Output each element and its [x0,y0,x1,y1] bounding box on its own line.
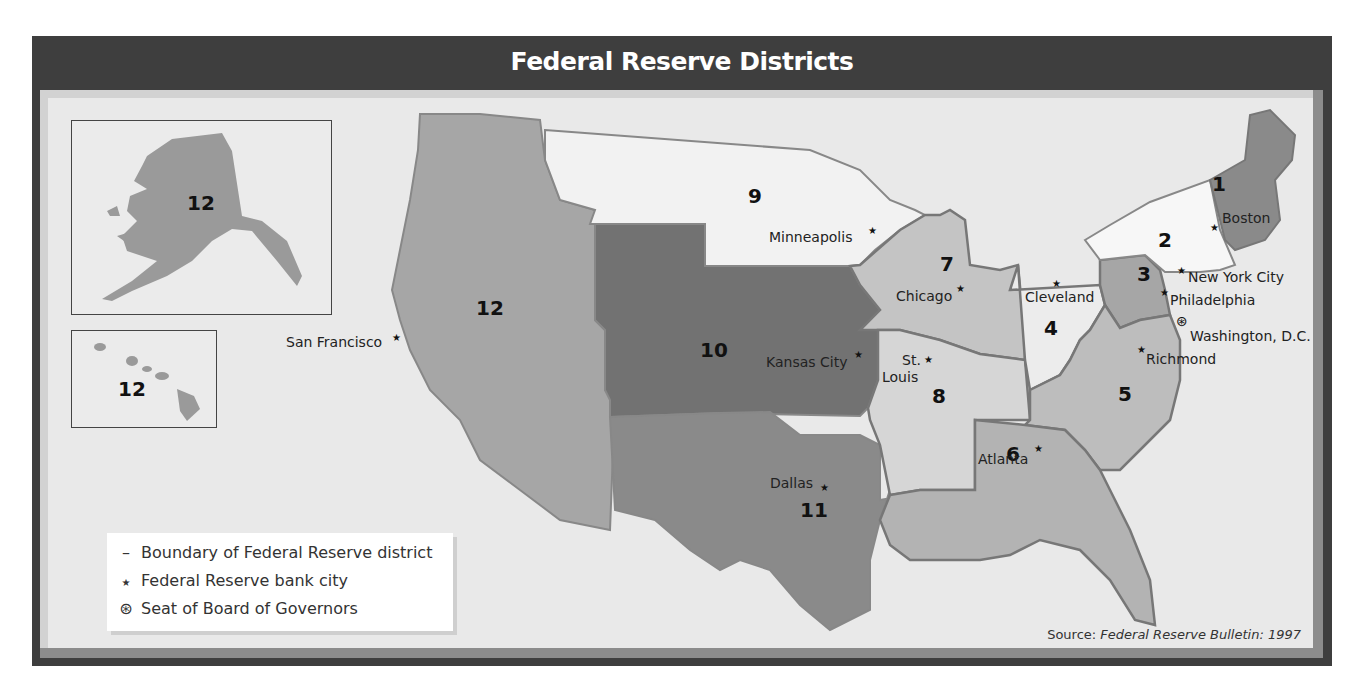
legend-item-bank-city: ★Federal Reserve bank city [117,571,348,590]
district-7-number: 7 [940,252,954,276]
district-12-number: 12 [476,296,504,320]
circled-star-icon: ⊛ [1176,314,1188,328]
city-st-louis-line1: St. [902,352,921,368]
district-11-region [610,412,920,630]
source-prefix: Source: [1047,627,1100,642]
city-dallas: Dallas [770,475,813,491]
legend-label: Federal Reserve bank city [141,571,348,590]
city-st-louis-line2: Louis [882,369,918,385]
district-11-number: 11 [800,498,828,522]
map-frame: Federal Reserve Districts 12 12 [32,36,1332,666]
district-2-number: 2 [1158,228,1172,252]
city-washington: Washington, D.C. [1190,328,1311,344]
star-icon: ★ [924,355,933,365]
district-5-number: 5 [1118,382,1132,406]
map-legend: –Boundary of Federal Reserve district ★F… [107,533,453,631]
city-richmond: Richmond [1146,351,1216,367]
city-boston: Boston [1222,210,1270,226]
star-icon: ★ [868,226,877,236]
star-icon: ★ [1160,288,1169,298]
city-minneapolis: Minneapolis [769,229,852,245]
legend-item-boundary: –Boundary of Federal Reserve district [117,543,432,562]
district-3-number: 3 [1137,262,1151,286]
star-icon: ★ [820,483,829,493]
star-icon: ★ [1177,266,1186,276]
star-icon: ★ [117,577,135,588]
city-kansas-city: Kansas City [766,354,847,370]
star-icon: ★ [1137,345,1146,355]
star-icon: ★ [1210,223,1219,233]
map-panel: 12 12 [40,90,1323,658]
city-cleveland: Cleveland [1025,289,1094,305]
district-4-number: 4 [1044,316,1058,340]
star-icon: ★ [956,284,965,294]
city-new-york: New York City [1188,269,1284,285]
legend-item-board-seat: ⊛Seat of Board of Governors [117,599,358,618]
legend-label: Seat of Board of Governors [141,599,358,618]
star-icon: ★ [1052,279,1061,289]
star-icon: ★ [1034,444,1043,454]
district-1-number: 1 [1212,172,1226,196]
boundary-line-icon: – [117,543,135,562]
star-icon: ★ [392,333,401,343]
city-atlanta: Atlanta [978,451,1028,467]
district-9-number: 9 [748,184,762,208]
city-chicago: Chicago [896,288,952,304]
circled-star-icon: ⊛ [117,599,135,618]
source-title: Federal Reserve Bulletin: 1997 [1100,627,1301,642]
legend-label: Boundary of Federal Reserve district [141,543,432,562]
district-8-number: 8 [932,384,946,408]
map-title: Federal Reserve Districts [32,36,1332,88]
district-10-number: 10 [700,338,728,362]
city-san-francisco: San Francisco [286,334,382,350]
city-philadelphia: Philadelphia [1170,292,1255,308]
source-citation: Source: Federal Reserve Bulletin: 1997 [1047,627,1301,642]
star-icon: ★ [854,350,863,360]
